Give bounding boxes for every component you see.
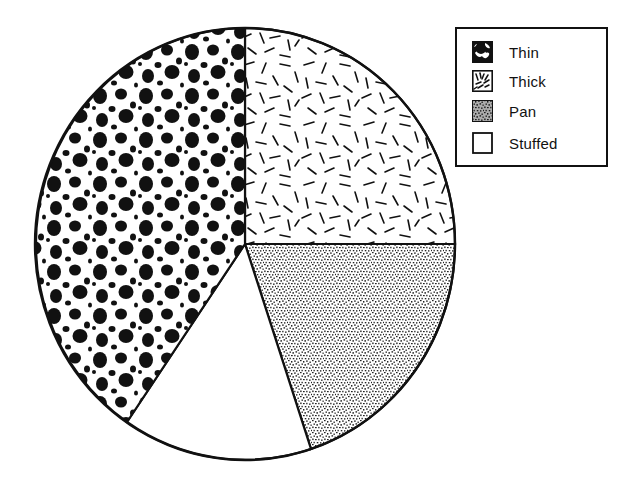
legend-label-thin: Thin <box>509 44 539 61</box>
legend-item-pan: Pan <box>472 99 536 123</box>
legend-label-thick: Thick <box>509 73 546 90</box>
stipple-swatch-icon <box>472 100 493 122</box>
legend-item-stuffed: Stuffed <box>472 131 558 155</box>
slice-thick <box>245 28 455 244</box>
blank-swatch-icon <box>472 132 493 154</box>
legend-item-thick: Thick <box>472 69 546 93</box>
legend-item-thin: Thin <box>472 40 539 64</box>
legend-label-stuffed: Stuffed <box>509 135 558 152</box>
spots-swatch-icon <box>472 41 493 63</box>
legend: Thin Thick Pan <box>455 27 608 167</box>
dashes-swatch-icon <box>472 70 493 92</box>
legend-label-pan: Pan <box>509 103 536 120</box>
